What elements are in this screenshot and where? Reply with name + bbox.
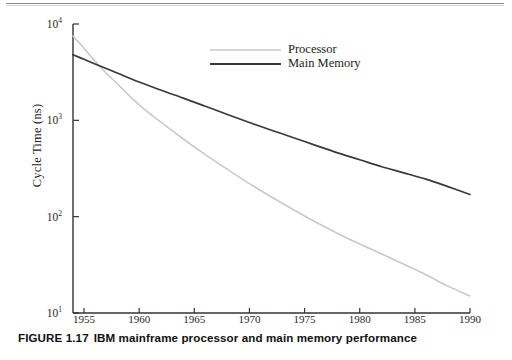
- figure-caption-text: IBM mainframe processor and main memory …: [94, 331, 417, 344]
- figure-caption: FIGURE 1.17IBM mainframe processor and m…: [18, 331, 498, 344]
- x-axis-tick-label: 1985: [392, 313, 438, 325]
- figure-chart-area: Cycle Time (ns) 101102103104 19551960196…: [0, 10, 512, 325]
- page-top-rule-shadow: [6, 5, 504, 6]
- legend-label-processor: Processor: [288, 42, 337, 57]
- x-axis-tick-label: 1965: [171, 313, 217, 325]
- series-line-main-memory: [73, 55, 470, 195]
- figure-page: Cycle Time (ns) 101102103104 19551960196…: [0, 0, 512, 360]
- chart-series-group: [73, 36, 470, 296]
- y-axis-tick-label: 102: [28, 209, 62, 223]
- legend-label-main-memory: Main Memory: [288, 56, 361, 71]
- x-axis-tick-label: 1955: [61, 313, 107, 325]
- page-top-rule: [6, 3, 504, 4]
- y-axis-tick-label: 101: [28, 305, 62, 319]
- series-line-processor: [73, 36, 470, 296]
- y-axis-tick-label: 104: [28, 16, 62, 30]
- figure-number: FIGURE 1.17: [18, 331, 89, 344]
- y-axis-title: Cycle Time (ns): [30, 76, 45, 216]
- y-axis-tick-label: 103: [28, 112, 62, 126]
- chart-axes: [73, 24, 470, 313]
- x-axis-tick-label: 1990: [447, 313, 493, 325]
- x-axis-tick-label: 1975: [282, 313, 328, 325]
- x-axis-tick-label: 1970: [226, 313, 272, 325]
- x-axis-tick-label: 1960: [116, 313, 162, 325]
- x-axis-tick-label: 1980: [337, 313, 383, 325]
- legend-swatches: [210, 50, 281, 64]
- line-chart: [0, 10, 512, 325]
- y-axis-ticks: [73, 24, 79, 313]
